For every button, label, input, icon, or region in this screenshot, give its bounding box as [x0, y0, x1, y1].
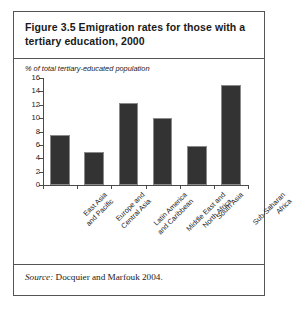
y-tick-label: 10: [32, 113, 40, 122]
bar: [84, 152, 104, 185]
y-tick-label: 6: [36, 140, 40, 149]
category-label: Sub-SaharanAfrica: [251, 191, 280, 233]
y-tick-label: 16: [32, 73, 40, 82]
x-tick-mark: [43, 185, 44, 189]
source-note: Source: Docquier and Marfouk 2004.: [25, 272, 163, 282]
bar-chart: 0246810121416 East Asiaand PacificEurope…: [14, 12, 264, 295]
source-label: Source:: [25, 272, 53, 282]
x-tick-mark: [146, 185, 147, 189]
source-divider: [14, 264, 264, 265]
y-tick-label: 4: [36, 153, 40, 162]
category-label: Europe andCentral Asia: [114, 191, 154, 231]
category-label: East Asiaand Pacific: [78, 191, 115, 228]
figure-panel: Figure 3.5 Emigration rates for those wi…: [13, 11, 265, 296]
y-tick-label: 12: [32, 100, 40, 109]
bar: [187, 146, 207, 185]
x-tick-mark: [248, 185, 249, 189]
bar: [50, 135, 70, 185]
y-axis-line: [43, 78, 44, 186]
y-tick-label: 2: [36, 167, 40, 176]
bar: [119, 103, 139, 185]
y-tick-label: 8: [36, 127, 40, 136]
x-tick-mark: [77, 185, 78, 189]
bar: [153, 118, 173, 185]
x-tick-mark: [111, 185, 112, 189]
y-tick-label: 14: [32, 86, 40, 95]
x-tick-mark: [180, 185, 181, 189]
x-tick-mark: [214, 185, 215, 189]
source-citation: Docquier and Marfouk 2004.: [53, 272, 162, 282]
bar: [221, 85, 241, 185]
y-tick-label: 0: [36, 180, 40, 189]
